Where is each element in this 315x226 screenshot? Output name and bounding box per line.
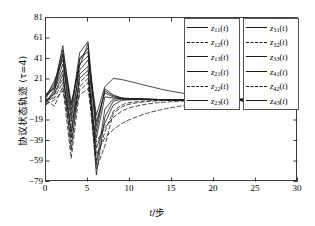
legend-entry[interactable]: z33(t) [246, 50, 295, 65]
legend-label: z11(t) [211, 24, 228, 33]
legend-entry[interactable]: z13(t) [187, 50, 236, 65]
legend-label: z23(t) [211, 97, 229, 106]
legend-label: z43(t) [270, 97, 288, 106]
x-tick-label: 15 [156, 184, 186, 193]
legend-line-sample-solid [187, 56, 208, 58]
legend-label: z22(t) [211, 82, 229, 91]
y-tick-label: 41 [3, 54, 43, 63]
x-tick-label: 30 [282, 184, 312, 193]
x-tick-label: 25 [240, 184, 270, 193]
legend-label: z21(t) [211, 68, 229, 77]
x-tick-label: 20 [198, 184, 228, 193]
legend-line-sample-solid [246, 56, 267, 58]
legend-label: z41(t) [270, 68, 288, 77]
figure-container: 协议状态轨迹 (τ=4) 816141211−19−39−59−79 05101… [0, 0, 315, 226]
legend-entry[interactable]: z31(t) [246, 21, 295, 36]
legend-label: z31(t) [270, 24, 288, 33]
legend-line-sample-solid [187, 100, 208, 102]
legend-entry[interactable]: z32(t) [246, 36, 295, 51]
legend-label: z42(t) [270, 82, 288, 91]
y-tick-label: 81 [3, 13, 43, 22]
legend-label: z32(t) [270, 38, 288, 47]
x-tick-label: 5 [72, 184, 102, 193]
legend-label: z13(t) [211, 53, 229, 62]
legend-entry[interactable]: z41(t) [246, 65, 295, 80]
y-tick-label: −19 [3, 115, 43, 124]
legend-box-1: z11(t)z12(t)z13(t)z21(t)z22(t)z23(t) [184, 18, 240, 110]
x-axis-title: t/步 [0, 205, 315, 219]
legend-line-sample-solid [246, 100, 267, 102]
legend-line-sample-solid [246, 71, 267, 73]
legend-box-2: z31(t)z32(t)z33(t)z41(t)z42(t)z43(t) [243, 18, 299, 110]
x-tick-label: 0 [30, 184, 60, 193]
legend-line-sample-dashed [246, 86, 267, 88]
x-tick-label: 10 [114, 184, 144, 193]
legend-label: z33(t) [270, 53, 288, 62]
y-tick-label: 61 [3, 33, 43, 42]
legend-entry[interactable]: z11(t) [187, 21, 236, 36]
y-tick-label: −39 [3, 136, 43, 145]
legend-line-sample-solid [246, 27, 267, 29]
legend-line-sample-solid [187, 27, 208, 29]
legend-entry[interactable]: z12(t) [187, 36, 236, 51]
legend-entry[interactable]: z23(t) [187, 94, 236, 109]
legend-line-sample-solid [187, 71, 208, 73]
legend-label: z12(t) [211, 38, 229, 47]
legend-entry[interactable]: z42(t) [246, 79, 295, 94]
legend-line-sample-dashed [187, 86, 208, 88]
y-tick-label: 1 [3, 95, 43, 104]
y-tick-label: −59 [3, 156, 43, 165]
legend-line-sample-dashed [187, 42, 208, 44]
legend-entry[interactable]: z22(t) [187, 79, 236, 94]
y-tick-label: 21 [3, 74, 43, 83]
legend-line-sample-dashed [246, 42, 267, 44]
legend-entry[interactable]: z21(t) [187, 65, 236, 80]
legend-entry[interactable]: z43(t) [246, 94, 295, 109]
